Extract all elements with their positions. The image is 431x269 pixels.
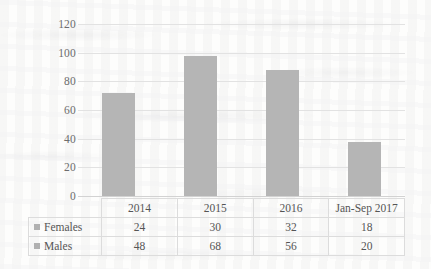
series-legend-females: Females (29, 218, 102, 237)
bar-2014 (102, 93, 135, 196)
table-corner-cell (29, 199, 102, 218)
table-header-2015: 2015 (177, 199, 253, 218)
table-cell-females-2015: 30 (177, 218, 253, 237)
table-cell-males-2014: 48 (102, 237, 178, 256)
chart-data-table: 201420152016Jan-Sep 2017Females24303218M… (28, 198, 405, 256)
stacked-column-chart: 120100806040200 201420152016Jan-Sep 2017… (0, 0, 431, 269)
table-header-row: 201420152016Jan-Sep 2017 (29, 199, 405, 218)
table-cell-females-jan-sep-2017: 18 (329, 218, 405, 237)
y-tick-label-40: 40 (30, 133, 76, 145)
table-header-2016: 2016 (253, 199, 329, 218)
y-axis-tick-labels: 120100806040200 (28, 0, 76, 200)
table-cell-males-2016: 56 (253, 237, 329, 256)
y-tick-label-100: 100 (30, 47, 76, 59)
bar-2015 (184, 56, 217, 196)
bar-2016 (266, 70, 299, 196)
y-tick-label-20: 20 (30, 161, 76, 173)
y-tick-label-60: 60 (30, 104, 76, 116)
y-tick-label-120: 120 (30, 18, 76, 30)
legend-swatch-icon (34, 243, 40, 249)
table-row: Females24303218 (29, 218, 405, 237)
legend-swatch-icon (34, 224, 40, 230)
y-tick-label-80: 80 (30, 75, 76, 87)
table-cell-females-2014: 24 (102, 218, 178, 237)
table-cell-males-jan-sep-2017: 20 (329, 237, 405, 256)
table-cell-females-2016: 32 (253, 218, 329, 237)
plot-area: 120100806040200 (0, 0, 431, 200)
table-header-2014: 2014 (102, 199, 178, 218)
series-legend-males: Males (29, 237, 102, 256)
bar-jan-sep-2017 (348, 142, 381, 196)
bars-group (78, 0, 405, 200)
table-cell-males-2015: 68 (177, 237, 253, 256)
table-header-jan-sep-2017: Jan-Sep 2017 (329, 199, 405, 218)
table-row: Males48685620 (29, 237, 405, 256)
